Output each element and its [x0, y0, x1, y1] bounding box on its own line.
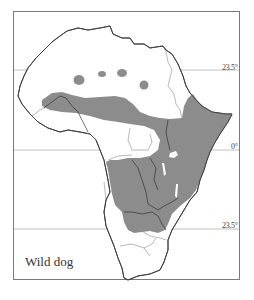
tropic-of-capricorn-label: 23.5° — [222, 221, 238, 230]
range-spot-2 — [98, 71, 106, 77]
range-spot-1 — [74, 75, 85, 85]
species-legend-label: Wild dog — [25, 254, 73, 270]
tropic-of-cancer-label: 23.5° — [222, 63, 238, 72]
range-spot-3 — [117, 69, 127, 77]
equator-label: 0° — [231, 142, 238, 151]
range-spot-4 — [140, 81, 149, 90]
